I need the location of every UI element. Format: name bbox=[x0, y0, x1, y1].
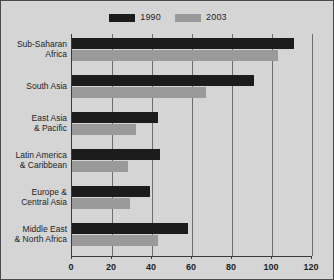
category-label: Sub-SaharanAfrica bbox=[1, 39, 67, 59]
bar-2003 bbox=[72, 124, 136, 135]
category-label-line: & North Africa bbox=[1, 234, 67, 244]
bar-2003 bbox=[72, 50, 278, 61]
bar-1990 bbox=[72, 38, 294, 49]
bar-2003 bbox=[72, 161, 128, 172]
bar-2003 bbox=[72, 235, 158, 246]
bar-group bbox=[72, 149, 312, 172]
category-label: Latin America& Caribbean bbox=[1, 150, 67, 170]
category-label-line: East Asia bbox=[1, 113, 67, 123]
tick-mark-80 bbox=[231, 256, 232, 259]
bar-chart-figure: 19902003 Sub-SaharanAfricaSouth AsiaEast… bbox=[0, 0, 334, 280]
x-tick-label-40: 40 bbox=[146, 262, 156, 272]
bars-layer bbox=[72, 34, 312, 256]
bar-1990 bbox=[72, 149, 160, 160]
category-label-line: Africa bbox=[1, 49, 67, 59]
x-tick-label-100: 100 bbox=[263, 262, 278, 272]
legend-label-2003: 2003 bbox=[206, 13, 227, 22]
legend-entry-2003: 2003 bbox=[175, 13, 227, 22]
category-label-line: Middle East bbox=[1, 224, 67, 234]
legend-label-1990: 1990 bbox=[140, 13, 161, 22]
category-label: South Asia bbox=[1, 81, 67, 91]
bar-group bbox=[72, 38, 312, 61]
chart-legend: 19902003 bbox=[1, 13, 334, 22]
tick-mark-60 bbox=[191, 256, 192, 259]
category-axis-labels: Sub-SaharanAfricaSouth AsiaEast Asia& Pa… bbox=[1, 34, 67, 256]
category-label-line: & Pacific bbox=[1, 123, 67, 133]
category-label: Europe &Central Asia bbox=[1, 187, 67, 207]
category-label-line: Central Asia bbox=[1, 197, 67, 207]
legend-swatch-2003 bbox=[175, 14, 201, 22]
bar-group bbox=[72, 186, 312, 209]
x-tick-label-80: 80 bbox=[226, 262, 236, 272]
category-label-line: Sub-Saharan bbox=[1, 39, 67, 49]
bar-group bbox=[72, 223, 312, 246]
tick-mark-40 bbox=[151, 256, 152, 259]
x-tick-label-120: 120 bbox=[303, 262, 318, 272]
gridline-120 bbox=[312, 34, 313, 256]
legend-entry-1990: 1990 bbox=[109, 13, 161, 22]
category-label-line: South Asia bbox=[1, 81, 67, 91]
tick-mark-20 bbox=[111, 256, 112, 259]
category-label-line: Europe & bbox=[1, 187, 67, 197]
bar-1990 bbox=[72, 112, 158, 123]
tick-mark-100 bbox=[271, 256, 272, 259]
bar-1990 bbox=[72, 186, 150, 197]
bar-1990 bbox=[72, 223, 188, 234]
bar-group bbox=[72, 112, 312, 135]
tick-mark-0 bbox=[71, 256, 72, 259]
category-label: East Asia& Pacific bbox=[1, 113, 67, 133]
legend-swatch-1990 bbox=[109, 14, 135, 22]
bar-2003 bbox=[72, 198, 130, 209]
category-label-line: Latin America bbox=[1, 150, 67, 160]
bar-group bbox=[72, 75, 312, 98]
tick-mark-120 bbox=[311, 256, 312, 259]
x-tick-label-20: 20 bbox=[106, 262, 116, 272]
x-tick-label-0: 0 bbox=[68, 262, 73, 272]
x-tick-label-60: 60 bbox=[186, 262, 196, 272]
category-label-line: & Caribbean bbox=[1, 160, 67, 170]
x-axis-tick-labels: 020406080100120 bbox=[71, 262, 311, 276]
plot-area bbox=[71, 34, 312, 256]
bar-1990 bbox=[72, 75, 254, 86]
bar-2003 bbox=[72, 87, 206, 98]
category-label: Middle East& North Africa bbox=[1, 224, 67, 244]
